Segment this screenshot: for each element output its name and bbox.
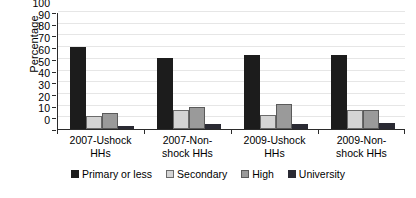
bar [379,123,395,129]
y-axis-tick-label: 40 [24,68,50,78]
x-axis-category-label: 2009-Non-shock HHs [318,134,405,160]
y-axis-tick-label: 80 [24,21,50,31]
bar [70,47,86,129]
y-axis-tick-label: 20 [24,92,50,102]
x-axis-category-label-line2: shock HHs [318,147,405,160]
y-axis-tick-mark [52,48,56,49]
legend-swatch-icon [71,170,79,178]
y-axis-tick-mark [52,25,56,26]
x-axis-category-label: 2007-Non-shock HHs [144,134,231,160]
y-axis-tick-label: 100 [24,0,50,8]
bar-group [70,13,134,129]
bar [244,55,260,129]
y-axis-tick-mark [52,95,56,96]
x-axis-category-label-line2: HHs [231,147,318,160]
x-axis-labels: 2007-UshockHHs2007-Non-shock HHs2009-Ush… [57,134,405,164]
y-axis-tick-mark [52,60,56,61]
x-axis-category-label-line1: 2009-Non- [337,134,387,146]
x-axis-category-label-line2: shock HHs [144,147,231,160]
bar [331,55,347,129]
y-axis-tick-label: 10 [24,103,50,113]
y-axis-tick-label: 0 [24,115,50,125]
y-axis-tick-label: 50 [24,57,50,67]
y-axis-tick-mark [52,130,56,131]
y-axis-tick-label: 60 [24,45,50,55]
y-axis-tick-mark [52,107,56,108]
bar [260,115,276,129]
legend-label: Secondary [177,168,227,180]
legend-label: University [299,168,345,180]
bar [173,110,189,129]
plot-area [57,13,405,130]
bar [276,104,292,129]
legend-item[interactable]: University [288,168,345,180]
x-axis-category-label-line1: 2007-Non- [163,134,213,146]
y-axis-tick-mark [52,83,56,84]
x-axis-category-label-line1: 2009-Ushock [244,134,306,146]
bar-group [157,13,221,129]
bar [118,126,134,130]
bar [205,124,221,129]
legend-item[interactable]: High [241,168,274,180]
bar [86,116,102,129]
bar [292,124,308,129]
y-axis-tick-mark [52,13,56,14]
y-axis-tick-mark [52,118,56,119]
bar [157,58,173,129]
x-axis-category-label: 2007-UshockHHs [57,134,144,160]
bar [363,110,379,129]
y-axis-tick-label: 30 [24,80,50,90]
bar [189,107,205,129]
legend-label: Primary or less [82,168,152,180]
bar [102,113,118,129]
bar-chart: Percentage 0102030405060708090100 2007-U… [0,0,416,198]
legend-swatch-icon [166,170,174,178]
bar-group [244,13,308,129]
legend-swatch-icon [288,170,296,178]
x-axis-category-label-line1: 2007-Ushock [70,134,132,146]
bar [347,110,363,129]
x-axis-category-label: 2009-UshockHHs [231,134,318,160]
y-axis-tick-labels: 0102030405060708090100 [22,13,50,130]
gridline [58,11,405,12]
legend-label: High [252,168,274,180]
chart-legend: Primary or lessSecondaryHighUniversity [0,168,416,180]
legend-item[interactable]: Secondary [166,168,227,180]
legend-swatch-icon [241,170,249,178]
legend-item[interactable]: Primary or less [71,168,152,180]
y-axis-tick-label: 90 [24,10,50,20]
bar-group [331,13,395,129]
y-axis-tick-mark [52,72,56,73]
y-axis-tick-mark [52,36,56,37]
x-axis-category-label-line2: HHs [57,147,144,160]
y-axis-tick-label: 70 [24,33,50,43]
